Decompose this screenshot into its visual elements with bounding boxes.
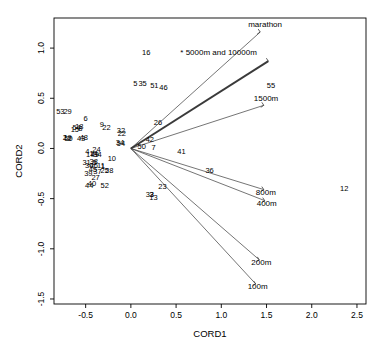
data-point-label: 41 [177,149,185,157]
data-point-label: 22 [102,125,110,133]
x-tick-label: 2.5 [351,310,363,320]
biplot-chart: -0.50.00.51.01.52.02.5-1.5-1.0-0.50.00.5… [0,0,384,364]
data-point-label: 13 [149,194,157,202]
y-tick-label: 1.0 [36,39,46,57]
data-point-label: 28 [105,167,113,175]
data-point-label: 2 [67,136,71,144]
x-tick-label: 0.5 [170,310,182,320]
data-point-label: 36 [205,167,213,175]
y-tick-label: 0.5 [36,89,46,107]
data-point-label: 6 [84,116,88,124]
data-point-label: 40 [88,180,96,188]
vector-label: marathon [248,21,282,29]
data-point-label: 22 [118,131,126,139]
data-point-label: 48 [80,135,88,143]
vector-arrow [131,148,259,259]
vector-arrow [131,148,264,189]
vector-label: 400m [257,200,277,208]
x-axis-title: CORD1 [193,328,226,339]
data-point-label: 54 [117,141,125,149]
data-point-label: 55 [267,82,275,90]
data-point-label: 8 [78,126,82,134]
y-axis-title: CORD2 [13,144,24,177]
vector-label: 1500m [254,95,278,103]
vector-label: 800m [256,189,276,197]
x-tick-label: 2.0 [306,310,318,320]
data-point-label: 23 [158,183,166,191]
data-point-label: 46 [159,84,167,92]
y-tick-label: -1.5 [36,290,46,308]
data-point-label: 50 [138,144,146,152]
x-tick-label: -0.5 [78,310,93,320]
data-point-label: 7 [151,145,155,153]
arrowhead [257,29,260,34]
data-point-label: 12 [340,185,348,193]
vector-label: 200m [251,259,271,267]
data-point-label: 5 [133,80,137,88]
data-point-label: 16 [142,49,150,57]
data-point-label: 51 [150,82,158,90]
y-tick-label: -1.0 [36,240,46,258]
x-tick-label: 0.0 [125,310,137,320]
data-point-label: 10 [108,156,116,164]
data-point-label: 35 [138,80,146,88]
vector-label: 100m [248,283,268,291]
x-tick-label: 1.5 [261,310,273,320]
y-tick-label: 0.0 [36,139,46,157]
vector-arrow [131,148,256,283]
data-point-label: 26 [154,120,162,128]
data-point-label: 52 [100,182,108,190]
data-point-label: 29 [63,109,71,117]
vector-label: * 5000m and 10000m [180,49,257,57]
x-tick-label: 1.0 [215,310,227,320]
y-tick-label: -0.5 [36,190,46,208]
